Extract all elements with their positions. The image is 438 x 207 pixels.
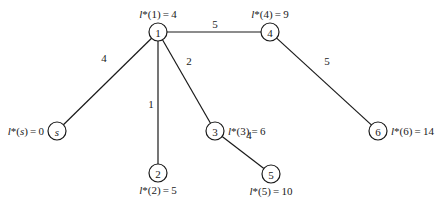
distance-label-6: l*(6) = 14 [391,125,435,138]
distance-label-5: l*(5) = 10 [249,185,293,198]
node-label: 6 [375,126,381,138]
distance-label-s: l*(s) = 0 [8,125,45,138]
node-label: 3 [212,126,218,138]
nodes-layer: s123456 [48,23,387,183]
node-1: 1 [149,23,167,41]
node-label: 4 [267,27,273,39]
node-4: 4 [261,23,279,41]
edge-weight-4-6: 5 [324,55,330,67]
edge-4-6 [277,38,372,125]
edge-weight-1-3: 2 [186,55,192,67]
node-s: s [48,122,66,140]
node-label: 2 [155,168,161,180]
node-3: 3 [206,122,224,140]
edge-weight-1-4: 5 [212,18,218,30]
node-label: s [55,126,59,138]
distance-labels-layer: l*(s) = 0l*(1) = 4l*(2) = 5l*(3) = 6l*(4… [8,8,435,198]
edge-s-1 [63,38,151,124]
edge-weight-1-2: 1 [148,98,154,110]
node-6: 6 [369,122,387,140]
distance-label-2: l*(2) = 5 [139,184,177,197]
distance-label-3: l*(3) = 6 [228,125,266,138]
node-5: 5 [262,165,280,183]
node-2: 2 [149,164,167,182]
distance-label-4: l*(4) = 9 [251,8,289,21]
edges-layer [63,32,371,169]
distance-label-1: l*(1) = 4 [139,8,177,21]
node-label: 5 [268,169,274,181]
edge-weight-s-1: 4 [101,52,107,64]
edge-3-5 [222,136,264,168]
node-label: 1 [155,27,161,39]
edge-1-3 [162,40,210,123]
shortest-path-tree-diagram: 451254 s123456 l*(s) = 0l*(1) = 4l*(2) =… [0,0,438,207]
